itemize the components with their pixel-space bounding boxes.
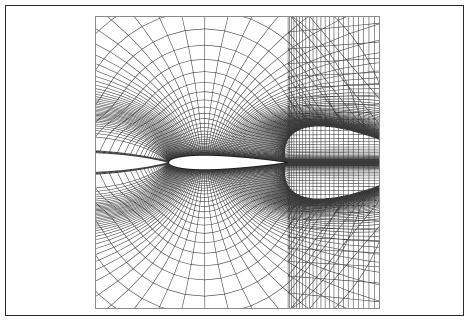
mesh-plot-box xyxy=(95,16,380,309)
figure-root xyxy=(0,0,470,322)
figure-outer-frame xyxy=(5,5,464,316)
computational-mesh-canvas xyxy=(95,16,380,309)
